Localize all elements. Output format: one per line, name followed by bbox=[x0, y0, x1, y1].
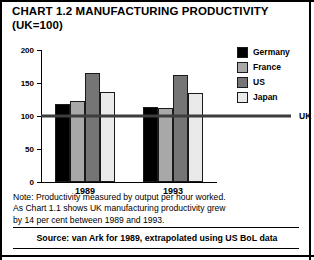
x-axis bbox=[41, 182, 217, 183]
divider-below-source bbox=[13, 248, 299, 249]
chart-title-line1: CHART 1.2 MANUFACTURING PRODUCTIVITY bbox=[12, 5, 269, 17]
bar-germany-1993 bbox=[143, 107, 158, 182]
legend-item-japan: Japan bbox=[237, 90, 290, 104]
legend-swatch-us bbox=[237, 77, 248, 88]
chart-source: Source: van Ark for 1989, extrapolated u… bbox=[0, 233, 314, 243]
legend-label-france: France bbox=[253, 62, 281, 72]
legend-label-japan: Japan bbox=[253, 92, 278, 102]
y-axis-tick bbox=[37, 50, 41, 51]
legend-swatch-japan bbox=[237, 92, 248, 103]
y-axis-label: 0 bbox=[30, 178, 34, 187]
bar-us-1993 bbox=[173, 75, 188, 182]
y-axis-tick bbox=[37, 182, 41, 183]
bar-france-1989 bbox=[70, 101, 85, 182]
uk-reference-line bbox=[41, 115, 291, 118]
legend-label-us: US bbox=[253, 77, 265, 87]
y-axis-label: 150 bbox=[21, 79, 34, 88]
bar-france-1993 bbox=[158, 108, 173, 182]
legend-item-us: US bbox=[237, 75, 290, 89]
legend-swatch-germany bbox=[237, 47, 248, 58]
chart-title-line2: (UK=100) bbox=[12, 19, 302, 33]
bar-us-1989 bbox=[85, 73, 100, 182]
y-axis-label: 200 bbox=[21, 46, 34, 55]
chart-figure: CHART 1.2 MANUFACTURING PRODUCTIVITY (UK… bbox=[0, 0, 314, 260]
y-axis-tick bbox=[37, 149, 41, 150]
bar-japan-1989 bbox=[100, 92, 115, 182]
legend-item-germany: Germany bbox=[237, 45, 290, 59]
divider-above-source bbox=[13, 227, 299, 228]
legend-swatch-france bbox=[237, 62, 248, 73]
y-axis-label: 100 bbox=[21, 112, 34, 121]
frame-border-top bbox=[0, 0, 314, 2]
y-axis-tick bbox=[37, 83, 41, 84]
chart-note: Note: Productivity measured by output pe… bbox=[13, 192, 301, 226]
frame-border-bottom bbox=[0, 255, 314, 257]
bar-japan-1993 bbox=[188, 93, 203, 182]
chart-note-line1: Note: Productivity measured by output pe… bbox=[13, 192, 301, 203]
chart-note-line3: by 14 per cent between 1989 and 1993. bbox=[13, 215, 301, 226]
legend-label-germany: Germany bbox=[253, 47, 290, 57]
plot-area: 05010015020019891993UK = 100 bbox=[41, 50, 217, 182]
legend-item-france: France bbox=[237, 60, 290, 74]
frame-border-left bbox=[0, 0, 2, 260]
chart-title: CHART 1.2 MANUFACTURING PRODUCTIVITY (UK… bbox=[12, 5, 302, 32]
chart-note-line2: As Chart 1.1 shows UK manufacturing prod… bbox=[13, 203, 301, 214]
y-axis-label: 50 bbox=[25, 145, 34, 154]
frame-border-right bbox=[309, 0, 311, 260]
chart-legend: GermanyFranceUSJapan bbox=[237, 45, 290, 105]
uk-reference-label: UK = 100 bbox=[299, 111, 314, 121]
